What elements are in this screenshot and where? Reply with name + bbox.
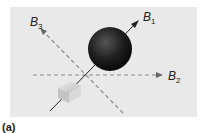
sphere: [88, 27, 132, 71]
b2-label: B2: [168, 70, 180, 85]
b3-label: B3: [30, 16, 42, 31]
b2-axis: [33, 72, 163, 78]
b1-label: B1: [143, 11, 155, 26]
figure-caption: (a): [2, 121, 15, 133]
